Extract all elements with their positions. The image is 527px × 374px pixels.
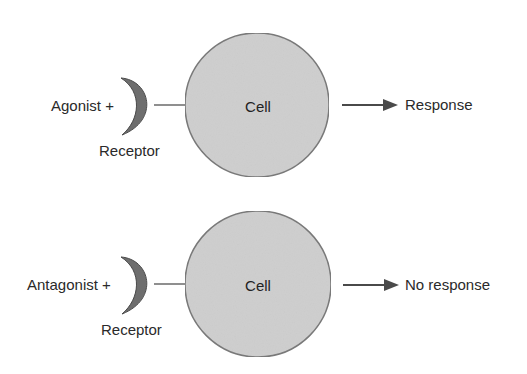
agonist-label: Agonist + — [51, 98, 114, 113]
receptor-label: Receptor — [101, 322, 162, 337]
response-label: Response — [405, 97, 473, 112]
receptor-crescent-icon — [121, 78, 147, 135]
arrow-head-icon — [384, 279, 399, 291]
cell-label: Cell — [245, 98, 271, 115]
receptor-crescent-icon — [121, 257, 147, 314]
diagram-canvas — [0, 0, 527, 374]
antagonist-label: Antagonist + — [27, 277, 111, 292]
receptor-label: Receptor — [99, 143, 160, 158]
no-response-label: No response — [405, 277, 490, 292]
cell-label: Cell — [245, 277, 271, 294]
arrow-head-icon — [383, 99, 398, 111]
